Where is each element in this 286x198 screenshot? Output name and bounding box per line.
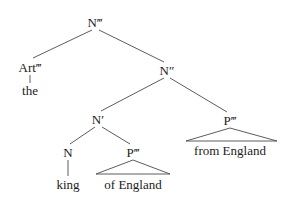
node-art-triple-prime: Art‴ (18, 61, 41, 74)
of-england-triangle (96, 160, 170, 174)
from-england-triangle (186, 128, 277, 141)
tree-lines-svg (0, 0, 286, 198)
terminal-king: king (56, 178, 79, 191)
node-n-triple-prime: N‴ (87, 16, 102, 29)
terminal-the: the (22, 84, 38, 97)
n-bar-to-n-head (70, 127, 95, 144)
terminal-of-england: of England (104, 178, 161, 191)
node-n-bar: N′ (92, 113, 104, 126)
node-n-double-prime: N″ (159, 64, 174, 77)
n-bar-to-p-max-left (102, 127, 130, 144)
node-p-triple-prime-left: P‴ (127, 146, 140, 159)
n-double-to-p-max-right (170, 78, 227, 112)
n-double-to-n-bar (101, 78, 164, 111)
node-p-triple-prime-right: P‴ (224, 114, 237, 127)
syntax-tree-figure: N‴ Art‴ N″ N′ P‴ N P‴ the king of Englan… (0, 0, 286, 198)
root-to-art (33, 30, 92, 58)
root-to-n-double (99, 30, 164, 62)
terminal-from-england: from England (194, 144, 266, 157)
node-n-head: N (63, 146, 73, 159)
